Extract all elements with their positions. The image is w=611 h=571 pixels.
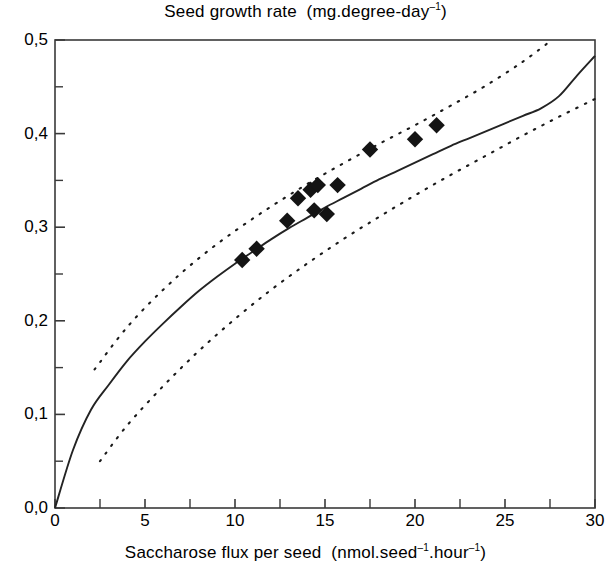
x-tick-label: 30 bbox=[575, 511, 611, 531]
data-point-diamond bbox=[428, 117, 444, 133]
x-tick-label: 0 bbox=[35, 511, 75, 531]
x-tick-label: 5 bbox=[125, 511, 165, 531]
data-point-diamond bbox=[319, 206, 335, 222]
x-tick-label: 20 bbox=[395, 511, 435, 531]
x-axis-units-exponent-2: –1 bbox=[469, 542, 481, 553]
y-tick-label: 0,2 bbox=[2, 311, 48, 331]
x-tick-label: 15 bbox=[305, 511, 345, 531]
x-axis-title: Saccharose flux per seed (nmol.seed–1.ho… bbox=[0, 543, 611, 563]
y-tick-label: 0,3 bbox=[2, 217, 48, 237]
y-axis-tick-labels: 0,00,10,20,30,40,5 bbox=[0, 0, 48, 571]
x-tick-label: 25 bbox=[485, 511, 525, 531]
y-tick-label: 0,1 bbox=[2, 404, 48, 424]
fitted-curve-line bbox=[55, 56, 595, 508]
x-axis-units-close: ) bbox=[480, 543, 486, 562]
data-point-diamond bbox=[329, 177, 345, 193]
x-axis-units-exponent-1: –1 bbox=[417, 542, 429, 553]
data-point-markers bbox=[234, 117, 445, 268]
data-point-diamond bbox=[248, 241, 264, 257]
upper-confidence-line bbox=[95, 40, 552, 369]
x-axis-units-a: (nmol.seed bbox=[331, 543, 417, 562]
plot-canvas bbox=[0, 0, 611, 571]
chart-figure: Seed growth rate (mg.degree-day–1) 0,00,… bbox=[0, 0, 611, 571]
lower-confidence-line bbox=[100, 99, 595, 461]
x-axis-units-b: .hour bbox=[429, 543, 469, 562]
x-tick-label: 10 bbox=[215, 511, 255, 531]
plot-frame bbox=[55, 40, 595, 508]
data-point-diamond bbox=[407, 131, 423, 147]
y-axis-ticks bbox=[55, 40, 65, 508]
y-tick-label: 0,4 bbox=[2, 124, 48, 144]
x-axis-title-main: Saccharose flux per seed bbox=[125, 543, 322, 562]
x-axis-ticks bbox=[55, 499, 595, 508]
axes-group bbox=[55, 40, 595, 508]
y-tick-label: 0,5 bbox=[2, 30, 48, 50]
data-point-diamond bbox=[362, 141, 378, 157]
